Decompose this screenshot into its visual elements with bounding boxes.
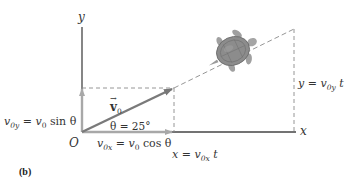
y-disp-tail: t [336,77,344,90]
vector-arrow-accent: → [110,95,117,103]
origin-label: O [69,137,79,149]
y-axis-label: y [78,11,85,23]
x-displacement-label: x = v0x t [172,149,218,163]
v0y-label: v0y = v0 sin θ [4,116,76,130]
panel-label: (b) [19,166,31,177]
x-disp-rhs-sub: 0x [201,154,210,163]
x-disp-tail: t [210,148,218,161]
x-disp-eq: = [178,148,194,161]
v0y-rhs-tail: sin θ [46,115,76,128]
v0x-eq: = [112,137,128,150]
y-disp-rhs-sub: 0y [327,83,336,92]
x-axis-label: x [300,125,307,137]
turtle-icon [199,22,265,82]
v0x-lhs-sub: 0x [103,143,112,152]
v0y-eq: = [19,115,35,128]
v0x-label: v0x = v0 cos θ [97,138,172,152]
v0-label: v0 → [110,101,122,116]
projectile-component-diagram: y x O v0 → θ = 25° v0y = v0 sin θ v0x = … [0,0,347,179]
v0y-lhs-sub: 0y [10,121,19,130]
v0x-rhs-tail: cos θ [139,137,171,150]
y-displacement-label: y = v0y t [298,78,344,92]
y-disp-eq: = [304,77,320,90]
v0-subscript: 0 [117,107,122,116]
angle-label: θ = 25° [110,121,150,132]
